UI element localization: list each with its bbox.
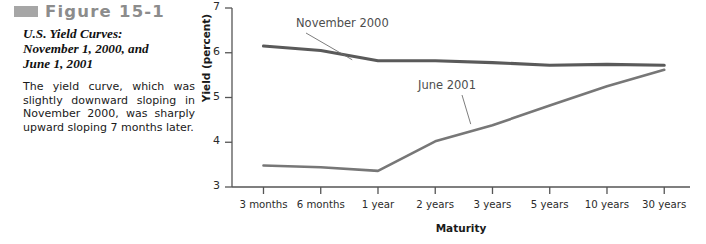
x-tick-label-1: 6 months xyxy=(297,199,345,210)
series-group xyxy=(263,46,664,171)
y-axis-ticks xyxy=(225,8,232,187)
figure-title-line-1: U.S. Yield Curves: xyxy=(23,26,198,41)
figure-description: The yield curve, which was slightly down… xyxy=(23,80,195,134)
series-label-june-2001: June 2001 xyxy=(418,78,476,92)
figure-title: U.S. Yield Curves: November 1, 2000, and… xyxy=(23,26,198,72)
caption-column: Figure 15-1 U.S. Yield Curves: November … xyxy=(0,0,206,244)
x-tick-label-3: 2 years xyxy=(416,199,454,210)
leader-line-november-2000 xyxy=(306,33,352,60)
y-tick-label-3: 3 xyxy=(200,179,220,192)
figure-bullet-square-icon xyxy=(14,6,38,17)
figure-header: Figure 15-1 xyxy=(14,2,165,21)
figure-number-label: Figure 15-1 xyxy=(45,2,165,21)
x-tick-label-4: 3 years xyxy=(474,199,512,210)
x-tick-label-5: 5 years xyxy=(531,199,569,210)
figure-title-line-2: November 1, 2000, and xyxy=(23,41,198,56)
series-label-november-2000: November 2000 xyxy=(296,16,389,30)
x-tick-label-0: 3 months xyxy=(239,199,287,210)
series-line-november-2000 xyxy=(263,46,664,65)
figure-panel: Figure 15-1 U.S. Yield Curves: November … xyxy=(0,0,706,244)
figure-title-line-3: June 1, 2001 xyxy=(23,56,198,71)
chart-column: Yield (percent) Maturity 34567 3 months6… xyxy=(186,0,706,244)
y-tick-label-6: 6 xyxy=(200,45,220,58)
y-tick-label-5: 5 xyxy=(200,90,220,103)
x-tick-label-6: 10 years xyxy=(585,199,629,210)
y-tick-label-7: 7 xyxy=(200,0,220,13)
x-tick-label-7: 30 years xyxy=(642,199,686,210)
y-tick-label-4: 4 xyxy=(200,134,220,147)
leader-line-june-2001 xyxy=(462,95,471,124)
x-axis-ticks xyxy=(263,187,664,194)
x-tick-label-2: 1 year xyxy=(362,199,394,210)
